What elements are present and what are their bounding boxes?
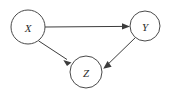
node-x[interactable]: X <box>11 10 45 44</box>
node-z-label: Z <box>83 67 90 79</box>
edge-y-to-z-line <box>108 38 135 65</box>
node-x-label: X <box>24 22 33 34</box>
edge-x-to-y <box>45 23 130 29</box>
dag-svg-canvas: X Y Z <box>0 0 174 94</box>
edge-x-to-z <box>39 41 72 66</box>
edge-x-to-z-line <box>39 41 68 60</box>
edge-x-to-y-arrowhead <box>122 23 130 29</box>
edge-x-to-z-arrowhead <box>63 60 71 66</box>
edge-x-to-y-line <box>45 26 125 27</box>
causal-dag-figure: X Y Z <box>0 0 174 94</box>
node-y[interactable]: Y <box>130 11 160 41</box>
node-z[interactable]: Z <box>70 56 102 88</box>
node-group: X Y Z <box>11 10 160 88</box>
edge-y-to-z <box>103 38 135 69</box>
